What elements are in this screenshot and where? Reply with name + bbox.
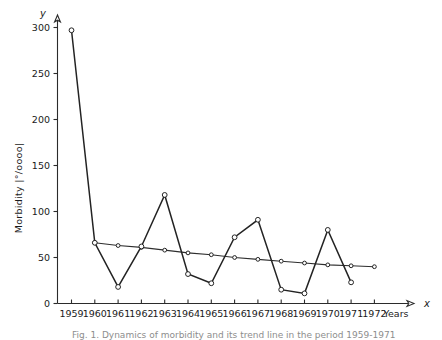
y-tick-label-50: 50 <box>38 252 50 263</box>
data-point <box>162 193 167 198</box>
morbidity-trend-chart: 0 50 100 150 200 250 300 y Morbidity |°/… <box>0 0 442 340</box>
y-tick-label-150: 150 <box>32 160 50 171</box>
data-point <box>116 285 121 290</box>
data-point <box>256 257 260 261</box>
figure-caption-strip: Fig. 1. Dynamics of morbidity and its tr… <box>0 330 442 340</box>
y-tick-label-250: 250 <box>32 68 50 79</box>
x-tick-label-1971: 1971 <box>339 308 363 319</box>
y-axis-title: Morbidity |°/oooo| <box>13 143 24 234</box>
y-tick-marks <box>54 28 58 304</box>
data-point <box>256 217 261 222</box>
data-point <box>209 253 213 257</box>
y-tick-label-100: 100 <box>32 206 50 217</box>
data-point <box>116 244 120 248</box>
data-point <box>279 259 283 263</box>
x-tick-label-1962: 1962 <box>129 308 153 319</box>
x-tick-label-1966: 1966 <box>223 308 247 319</box>
data-point <box>163 248 167 252</box>
x-tick-label-1968: 1968 <box>269 308 293 319</box>
x-tick-labels: 1959 1960 1961 1962 1963 1964 1965 1966 … <box>59 308 386 319</box>
x-tick-label-1965: 1965 <box>199 308 223 319</box>
figure-container: 0 50 100 150 200 250 300 y Morbidity |°/… <box>0 0 442 340</box>
x-tick-label-1960: 1960 <box>83 308 107 319</box>
data-point <box>186 251 190 255</box>
data-point <box>373 265 377 269</box>
data-point <box>325 228 330 233</box>
data-point <box>209 281 214 286</box>
x-axis-unit-label: Years <box>382 308 408 319</box>
x-tick-label-1970: 1970 <box>316 308 340 319</box>
x-tick-label-1961: 1961 <box>106 308 130 319</box>
data-point <box>186 272 191 277</box>
x-tick-label-1964: 1964 <box>176 308 200 319</box>
y-tick-label-300: 300 <box>32 22 50 33</box>
y-axis-symbol: y <box>39 8 47 19</box>
y-axis: 0 50 100 150 200 250 300 y Morbidity |°/… <box>13 8 60 309</box>
data-point <box>302 291 307 296</box>
data-point <box>232 235 237 240</box>
y-tick-labels: 0 50 100 150 200 250 300 <box>32 22 50 309</box>
data-point <box>139 244 144 249</box>
y-tick-label-200: 200 <box>32 114 50 125</box>
x-tick-label-1967: 1967 <box>246 308 270 319</box>
data-point <box>92 240 97 245</box>
x-tick-label-1963: 1963 <box>153 308 177 319</box>
x-axis: 1959 1960 1961 1962 1963 1964 1965 1966 … <box>58 298 431 319</box>
data-point <box>303 261 307 265</box>
data-point <box>279 287 284 292</box>
x-tick-marks <box>72 300 375 304</box>
y-tick-label-0: 0 <box>44 298 50 309</box>
plot-area <box>69 28 376 296</box>
x-axis-arrowhead <box>407 301 414 307</box>
data-point <box>349 280 354 285</box>
figure-caption: Fig. 1. Dynamics of morbidity and its tr… <box>72 330 395 340</box>
x-tick-label-1959: 1959 <box>59 308 83 319</box>
data-point <box>349 264 353 268</box>
data-point <box>233 256 237 260</box>
data-point <box>69 28 74 33</box>
x-axis-symbol: x <box>423 298 430 309</box>
data-point <box>326 263 330 267</box>
x-tick-label-1969: 1969 <box>292 308 316 319</box>
